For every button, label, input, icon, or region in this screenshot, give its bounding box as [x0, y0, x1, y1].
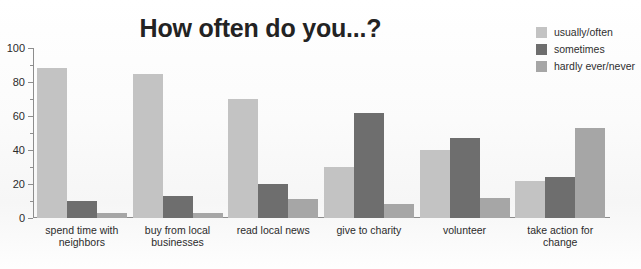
- y-axis-tick: [28, 150, 33, 151]
- bar: [480, 198, 510, 218]
- bar-group: give to charity: [321, 48, 417, 218]
- x-axis-category-label: take action forchange: [498, 224, 622, 248]
- legend-label: usually/often: [554, 27, 613, 38]
- bar: [163, 196, 193, 218]
- bar: [354, 113, 384, 218]
- bar: [384, 204, 414, 218]
- bar-group: spend time withneighbors: [34, 48, 130, 218]
- y-axis-tick-label: 60: [13, 110, 25, 122]
- bar: [420, 150, 450, 218]
- bar-group: take action forchange: [512, 48, 608, 218]
- bar-groups: spend time withneighborsbuy from localbu…: [34, 48, 608, 218]
- bar: [288, 199, 318, 218]
- bar: [450, 138, 480, 218]
- y-axis-minor-tick: [30, 99, 33, 100]
- y-axis-tick: [28, 184, 33, 185]
- bar: [97, 213, 127, 218]
- y-axis-minor-tick: [30, 201, 33, 202]
- bar: [193, 213, 223, 218]
- y-axis-minor-tick: [30, 133, 33, 134]
- bar: [133, 74, 163, 219]
- y-axis-minor-tick: [30, 65, 33, 66]
- bar: [324, 167, 354, 218]
- y-axis-tick-label: 40: [13, 144, 25, 156]
- y-axis-tick-label: 80: [13, 76, 25, 88]
- chart-figure: How often do you...? usually/oftensometi…: [0, 0, 641, 269]
- bar: [545, 177, 575, 218]
- y-axis-tick: [28, 116, 33, 117]
- y-axis-tick: [28, 82, 33, 83]
- y-axis-tick-label: 0: [19, 212, 25, 224]
- y-axis-tick-label: 20: [13, 178, 25, 190]
- bar: [67, 201, 97, 218]
- y-axis-minor-tick: [30, 167, 33, 168]
- bar-group: volunteer: [417, 48, 513, 218]
- legend-swatch-icon: [536, 27, 547, 38]
- y-axis-tick-label: 100: [7, 42, 25, 54]
- y-axis-tick: [28, 218, 33, 219]
- bar: [228, 99, 258, 218]
- bar: [515, 181, 545, 218]
- y-axis-tick: [28, 48, 33, 49]
- legend-item: usually/often: [536, 26, 635, 39]
- bar: [575, 128, 605, 218]
- bar-group: buy from localbusinesses: [130, 48, 226, 218]
- bar-group: read local news: [225, 48, 321, 218]
- bar: [37, 68, 67, 218]
- bar: [258, 184, 288, 218]
- plot-area: 020406080100 spend time withneighborsbuy…: [33, 48, 608, 218]
